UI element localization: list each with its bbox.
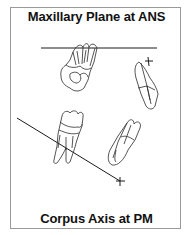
pm-crosshair-icon <box>116 177 125 186</box>
lower-incisor-icon <box>108 120 140 165</box>
upper-incisor-icon <box>135 62 158 109</box>
tooth-diagram <box>0 0 193 235</box>
upper-molar-icon <box>61 44 97 91</box>
ans-crosshair-icon <box>145 57 153 66</box>
bottom-label: Corpus Axis at PM <box>0 211 193 226</box>
corpus-axis-line <box>17 118 120 181</box>
